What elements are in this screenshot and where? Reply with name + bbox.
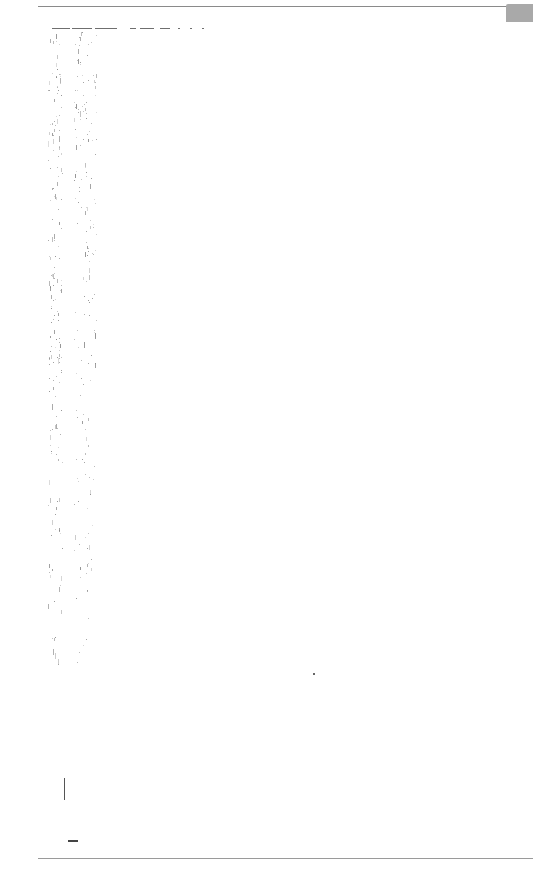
footer-mark bbox=[68, 840, 78, 842]
scan-noise-margin bbox=[48, 32, 108, 672]
page-corner-tab bbox=[506, 4, 533, 22]
stray-mark bbox=[313, 673, 315, 675]
bottom-rule bbox=[38, 858, 533, 859]
faint-dashed-header-line bbox=[52, 28, 212, 30]
top-rule bbox=[38, 6, 533, 7]
margin-mark bbox=[64, 778, 65, 800]
